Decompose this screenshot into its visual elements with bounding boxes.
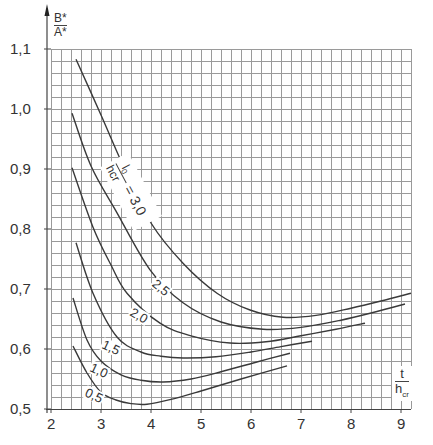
y-axis-arrow-icon [45,4,50,16]
y-axis-label-denominator: A* [54,25,67,39]
y-tick-label: 0,8 [10,221,31,236]
chart-canvas: l0hcr= 3,0 [0,0,433,445]
axes [44,4,411,413]
x-axis-label-denominator: hcr [395,381,409,396]
y-tick-label: 1,1 [10,41,31,56]
y-tick-label: 0,7 [10,281,31,296]
parameter-label: l0hcr= 3,0 [100,152,162,231]
y-tick-label: 0,5 [10,401,31,416]
x-axis-label-den-sub: cr [402,390,409,399]
x-tick-label: 2 [47,416,55,431]
y-tick-label: 0,6 [10,341,31,356]
y-tick-label: 1,0 [10,101,31,116]
x-tick-label: 4 [147,416,155,431]
x-tick-label: 7 [297,416,305,431]
x-axis-label-numerator: t [395,367,409,382]
y-axis-label: B* A* [52,12,69,38]
x-axis-label: t hcr [392,366,412,401]
y-tick-label: 0,9 [10,161,31,176]
y-axis-label-numerator: B* [54,12,67,26]
x-tick-label: 3 [97,416,105,431]
x-tick-label: 8 [347,416,355,431]
x-tick-label: 5 [197,416,205,431]
x-tick-label: 9 [397,416,405,431]
x-tick-label: 6 [247,416,255,431]
param-label-group: l0hcr= 3,0 [100,152,162,231]
